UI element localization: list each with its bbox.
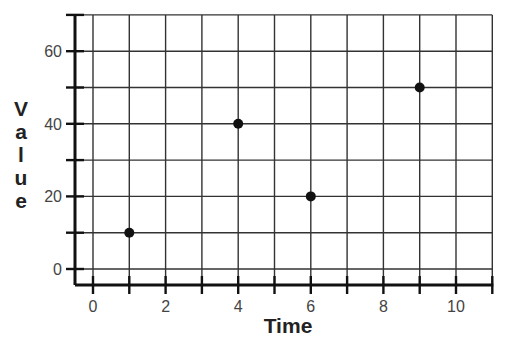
axes xyxy=(75,15,493,285)
x-axis-label: Time xyxy=(264,314,313,337)
x-tick-label: 4 xyxy=(234,298,243,315)
x-tick-label: 2 xyxy=(161,298,170,315)
y-tick-label: 60 xyxy=(44,43,62,60)
data-point xyxy=(415,83,425,93)
tick-labels: 02468100204060 xyxy=(44,43,465,315)
data-point xyxy=(124,228,134,238)
y-axis-label-letter: u xyxy=(15,166,28,189)
y-axis-label-letter: l xyxy=(18,143,24,166)
y-axis-label-letter: V xyxy=(14,97,28,120)
grid-lines xyxy=(75,15,492,285)
y-axis-label: Value xyxy=(14,97,28,212)
x-tick-label: 6 xyxy=(306,298,315,315)
y-tick-label: 20 xyxy=(44,188,62,205)
data-point xyxy=(233,119,243,129)
x-tick-label: 10 xyxy=(447,298,465,315)
y-tick-label: 0 xyxy=(53,261,62,278)
scatter-chart: 02468100204060 Value Time xyxy=(0,0,506,358)
y-axis-label-letter: a xyxy=(15,120,27,143)
x-tick-label: 8 xyxy=(379,298,388,315)
y-tick-label: 40 xyxy=(44,116,62,133)
data-point xyxy=(306,191,316,201)
x-tick-label: 0 xyxy=(89,298,98,315)
y-axis-label-letter: e xyxy=(15,189,27,212)
